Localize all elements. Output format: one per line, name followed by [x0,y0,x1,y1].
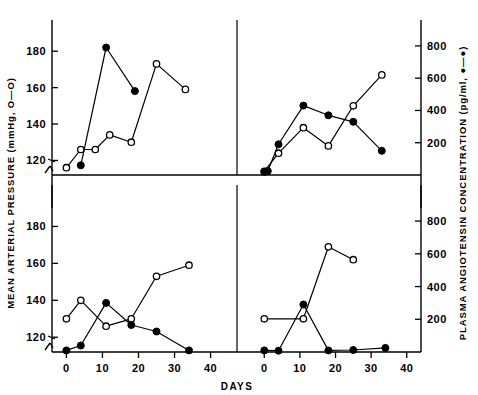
data-point-filled-bottom-left-0 [63,347,70,354]
data-point-filled-bottom-left-4 [153,328,160,335]
data-point-filled-bottom-right-3 [325,347,332,354]
right-tick-label-200: 200 [427,313,447,325]
data-point-open-top-left-1 [78,146,84,152]
data-point-filled-bottom-left-5 [186,347,193,354]
data-point-open-bottom-left-0 [63,316,69,322]
data-point-filled-top-right-3 [300,102,307,109]
x-tick-label-30: 30 [168,362,181,374]
left-tick-label-140: 140 [26,294,46,306]
data-point-open-top-right-2 [300,125,306,131]
left-tick-label-120: 120 [26,331,46,343]
right-tick-label-200: 200 [427,137,447,149]
left-tick-label-160: 160 [26,82,46,94]
data-point-filled-bottom-right-0 [261,347,268,354]
x-tick-label-40: 40 [204,362,217,374]
series-line-top-right-open-circle [264,75,382,171]
data-point-open-top-left-5 [153,61,159,67]
data-point-open-bottom-right-0 [261,316,267,322]
data-point-filled-bottom-right-5 [382,344,389,351]
data-point-open-bottom-right-2 [325,244,331,250]
data-point-open-top-left-2 [92,146,98,152]
data-point-open-top-left-0 [63,165,69,171]
data-point-filled-top-right-4 [325,112,332,119]
left-tick-label-180: 180 [26,220,46,232]
data-point-filled-bottom-right-1 [275,347,282,354]
data-point-filled-top-left-0 [77,162,84,169]
data-point-open-top-left-3 [107,132,113,138]
data-point-filled-bottom-left-2 [103,299,110,306]
data-point-open-bottom-left-4 [153,273,159,279]
data-point-open-bottom-right-1 [300,316,306,322]
x-tick-label-10: 10 [96,362,109,374]
right-tick-label-800: 800 [427,40,447,52]
data-point-open-top-right-4 [350,103,356,109]
data-point-open-top-left-4 [128,139,134,145]
x-tick-label-20: 20 [132,362,145,374]
series-line-top-right-filled-circle [264,106,382,172]
right-tick-label-800: 800 [427,215,447,227]
data-point-open-bottom-left-1 [78,297,84,303]
x-tick-label-0: 0 [63,362,70,374]
data-point-open-bottom-left-5 [186,262,192,268]
data-point-open-bottom-right-3 [350,257,356,263]
x-tick-label-10: 10 [293,362,306,374]
series-line-bottom-left-open-circle [66,265,189,326]
data-point-filled-top-right-5 [350,118,357,125]
x-tick-label-0: 0 [261,362,268,374]
left-tick-label-160: 160 [26,257,46,269]
left-tick-label-180: 180 [26,45,46,57]
right-tick-label-400: 400 [427,104,447,116]
right-tick-label-400: 400 [427,281,447,293]
data-point-filled-bottom-right-2 [300,301,307,308]
data-point-filled-top-left-2 [131,88,138,95]
left-tick-label-140: 140 [26,118,46,130]
data-point-filled-top-left-1 [103,44,110,51]
x-tick-label-40: 40 [400,362,413,374]
series-line-bottom-right-open-circle [264,247,353,319]
data-point-open-top-right-3 [325,143,331,149]
chart-canvas: 1201401601801201401601802004006008002004… [0,0,478,395]
data-point-filled-bottom-left-3 [128,322,135,329]
data-point-open-top-left-6 [182,86,188,92]
series-line-bottom-right-filled-circle [264,305,385,351]
left-tick-label-120: 120 [26,154,46,166]
series-line-top-left-open-circle [66,64,185,168]
data-point-filled-top-right-2 [275,141,282,148]
data-point-filled-top-right-1 [264,168,271,175]
data-point-filled-top-right-6 [378,147,385,154]
x-tick-label-20: 20 [329,362,342,374]
right-tick-label-600: 600 [427,248,447,260]
right-tick-label-600: 600 [427,72,447,84]
series-line-top-left-filled-circle [81,48,135,166]
figure-container: 1201401601801201401601802004006008002004… [0,0,478,395]
x-tick-label-30: 30 [365,362,378,374]
data-point-open-top-right-5 [379,72,385,78]
x-axis-title: DAYS [221,381,253,392]
data-point-open-bottom-left-2 [103,323,109,329]
left-axis-title: MEAN ARTERIAL PRESSURE (mmHg, O—O) [5,77,16,309]
right-axis-title: PLASMA ANGIOTENSIN CONCENTRATION (pg/ml,… [457,46,468,340]
data-point-filled-bottom-left-1 [77,342,84,349]
data-point-filled-bottom-right-4 [350,347,357,354]
